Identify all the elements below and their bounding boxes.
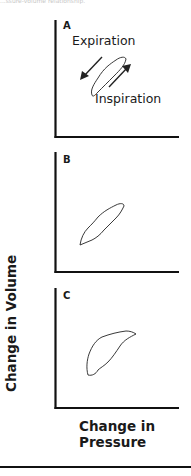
panel-a-label: A [63, 20, 71, 31]
panel-c-label: C [63, 290, 70, 301]
panel-b: B [54, 152, 180, 274]
y-axis-label: Change in Volume [3, 192, 23, 392]
top-caption-fragment: ...ssure-volume relationship. [0, 0, 191, 4]
panel-c-plot [54, 288, 180, 410]
inspiration-label: Inspiration [95, 91, 161, 106]
x-axis-label-line2: Pressure [79, 434, 155, 450]
panel-b-label: B [63, 154, 71, 165]
x-axis-label-line1: Change in [79, 418, 155, 434]
x-axis-label: Change in Pressure [79, 418, 155, 450]
panel-a: A Expiration Inspiration [54, 20, 180, 140]
bottom-rule [0, 466, 191, 468]
expiration-label: Expiration [72, 33, 135, 48]
panel-b-plot [54, 152, 180, 274]
panel-c: C [54, 288, 180, 410]
